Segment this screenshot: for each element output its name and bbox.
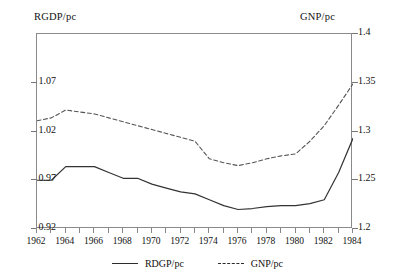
x-axis-tick-mark [79,228,80,233]
legend-swatch-dashed [218,263,244,264]
x-axis-tick-label: 1974 [199,236,218,246]
x-axis-tick-mark [309,228,310,233]
x-axis-tick-label: 1982 [314,236,333,246]
x-axis-tick-mark [280,228,281,233]
x-axis-tick-mark [223,228,224,233]
left-axis-tick-label: 0.97 [39,172,57,183]
right-axis-tick-label: 1.4 [358,26,371,37]
right-axis-title: GNP/pc [300,11,335,22]
x-axis-tick-mark [50,228,51,233]
x-axis-tick-label: 1976 [228,236,247,246]
x-axis-tick-mark [338,228,339,233]
x-axis-tick-mark [352,228,353,233]
x-axis-tick-label: 1980 [285,236,304,246]
right-axis-tick-label: 1.35 [358,75,376,86]
left-axis-tick-label: 0.92 [39,221,57,232]
x-axis-tick-mark [323,228,324,233]
legend-label: GNP/pc [251,258,283,269]
x-axis-tick-label: 1964 [55,236,74,246]
x-axis-tick-mark [295,228,296,233]
x-axis-tick-mark [165,228,166,233]
left-axis-tick-mark [31,131,37,132]
left-axis-tick-label: 1.07 [39,75,57,86]
plot-area [36,33,352,228]
right-axis-tick-mark [352,82,358,83]
left-axis-tick-mark [31,82,37,83]
right-axis-tick-mark [352,33,358,34]
x-axis-tick-label: 1966 [84,236,103,246]
legend-swatch-solid [112,263,138,264]
left-axis-tick-label: 1.02 [39,124,57,135]
right-axis-tick-label: 1.25 [358,172,376,183]
x-axis-tick-mark [137,228,138,233]
x-axis-tick-mark [151,228,152,233]
x-axis-tick-label: 1984 [343,236,362,246]
right-axis-tick-mark [352,179,358,180]
x-axis-tick-label: 1968 [113,236,132,246]
legend-item[interactable]: RDGP/pc [112,258,184,269]
x-axis-tick-mark [251,228,252,233]
x-axis-tick-mark [208,228,209,233]
series-canvas [37,34,353,229]
right-axis-tick-label: 1.2 [358,221,371,232]
x-axis-tick-mark [194,228,195,233]
left-axis-tick-mark [31,179,37,180]
left-axis-title: RGDP/pc [34,11,76,22]
legend-label: RDGP/pc [145,258,184,269]
x-axis-tick-mark [180,228,181,233]
x-axis-tick-mark [237,228,238,233]
legend-item[interactable]: GNP/pc [218,258,283,269]
x-axis-tick-label: 1978 [256,236,275,246]
x-axis-tick-mark [36,228,37,233]
x-axis-tick-label: 1970 [141,236,160,246]
chart-figure: RGDP/pc GNP/pc 1.071.020.970.92 1.41.351… [0,0,395,280]
x-axis-tick-label: 1962 [27,236,46,246]
x-axis-tick-mark [122,228,123,233]
x-axis-tick-mark [108,228,109,233]
x-axis-tick-label: 1972 [170,236,189,246]
x-axis-tick-mark [266,228,267,233]
series-line-gnp-pc [37,84,353,166]
x-axis-tick-mark [93,228,94,233]
chart-legend: RDGP/pcGNP/pc [0,258,395,269]
right-axis-tick-mark [352,131,358,132]
series-line-rdgp-pc [37,138,353,209]
right-axis-tick-label: 1.3 [358,124,371,135]
x-axis-tick-mark [65,228,66,233]
